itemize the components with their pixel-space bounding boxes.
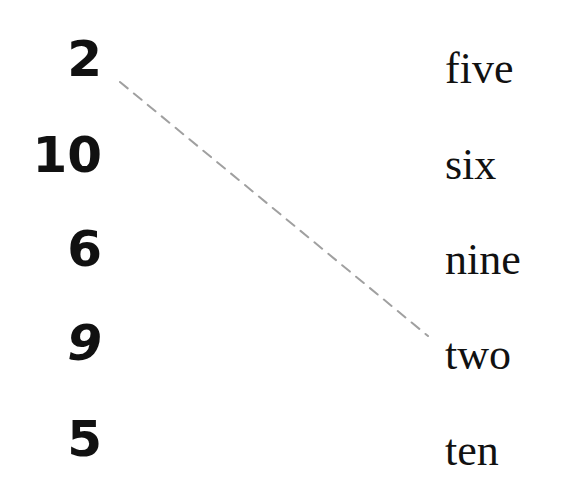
match-lines [0,0,573,492]
dashed-match-line [120,82,428,336]
